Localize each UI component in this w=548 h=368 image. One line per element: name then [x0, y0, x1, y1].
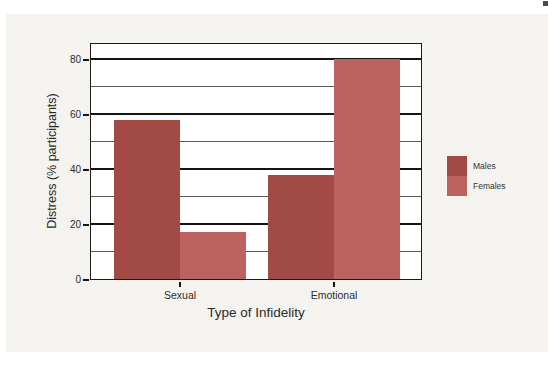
y-tick-0 [83, 279, 89, 281]
legend-label-females: Females [473, 181, 506, 191]
x-tick-label-emotional: Emotional [311, 289, 358, 301]
y-tick-20 [83, 224, 89, 226]
legend-swatch-females [447, 176, 467, 196]
y-tick-80 [83, 59, 89, 61]
y-tick-label-80: 80 [55, 54, 81, 65]
x-tick-emotional [333, 282, 335, 287]
bar-emotional-males [268, 175, 334, 280]
legend-label-males: Males [473, 161, 496, 171]
y-tick-label-0: 0 [55, 274, 81, 285]
page-corner-artifact [543, 1, 548, 6]
legend-item-females: Females [447, 176, 506, 196]
legend-item-males: Males [447, 156, 506, 176]
y-tick-60 [83, 114, 89, 116]
bar-emotional-females [334, 59, 400, 279]
y-tick-40 [83, 169, 89, 171]
x-tick-sexual [179, 282, 181, 287]
bar-sexual-females [180, 232, 246, 279]
bar-sexual-males [114, 120, 180, 280]
legend: MalesFemales [447, 156, 506, 196]
legend-swatch-males [447, 156, 467, 176]
y-axis-title: Distress (% participants) [45, 93, 59, 228]
x-axis-title: Type of Infidelity [207, 305, 305, 320]
x-tick-label-sexual: Sexual [164, 289, 196, 301]
